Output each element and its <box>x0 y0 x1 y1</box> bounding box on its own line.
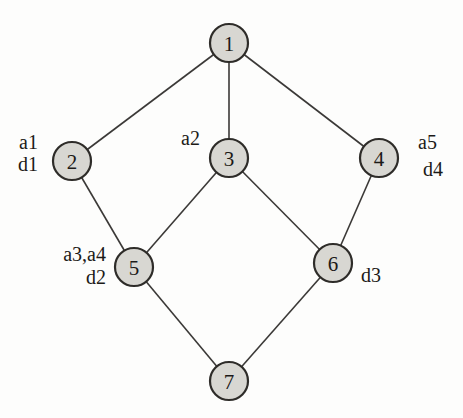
nodes-layer: 1234567 <box>53 24 398 400</box>
annotation-d2: d2 <box>86 266 106 288</box>
node-2-number: 2 <box>67 150 78 174</box>
node-7-number: 7 <box>224 370 235 394</box>
edge-6-7 <box>229 263 333 381</box>
node-6-number: 6 <box>328 252 339 276</box>
edge-1-2 <box>72 43 229 161</box>
graph-svg: 1234567 a1d1a2a5d4a3,a4d2d3 <box>0 0 463 418</box>
annotation-a1: a1 <box>19 131 38 153</box>
node-4-number: 4 <box>374 147 385 171</box>
annotation-a5: a5 <box>418 131 437 153</box>
annotation-d1: d1 <box>18 153 38 175</box>
annotation-d4: d4 <box>423 158 443 180</box>
edge-5-7 <box>134 267 229 381</box>
edge-3-5 <box>134 158 229 267</box>
graph-figure: 1234567 a1d1a2a5d4a3,a4d2d3 <box>0 0 463 418</box>
annotation-a2: a2 <box>181 127 200 149</box>
annotation-d3: d3 <box>361 264 381 286</box>
edge-3-6 <box>229 158 333 263</box>
annotation-a3a4: a3,a4 <box>63 243 106 265</box>
node-5-number: 5 <box>129 256 140 280</box>
edge-1-4 <box>229 43 379 158</box>
node-3-number: 3 <box>224 147 235 171</box>
edges-layer <box>72 43 379 381</box>
node-1-number: 1 <box>224 32 235 56</box>
